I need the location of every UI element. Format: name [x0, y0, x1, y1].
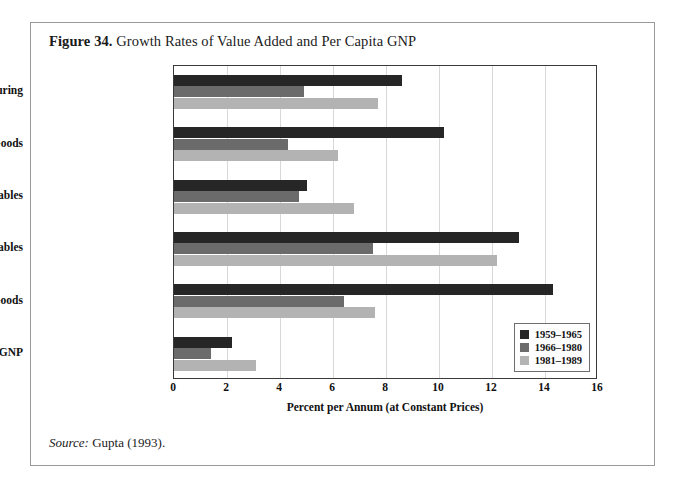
x-tick-label: 10 [432, 381, 444, 393]
x-tick-label: 14 [538, 381, 550, 393]
category-label: Intermediate Goods [0, 137, 23, 149]
figure-frame: Figure 34. Growth Rates of Value Added a… [30, 22, 655, 466]
legend-label: 1981–1989 [535, 355, 582, 366]
x-tick-label: 8 [382, 381, 388, 393]
chart-legend: 1959–19651966–19801981–1989 [514, 323, 590, 372]
bar [174, 307, 375, 318]
figure-number: Figure 34. [49, 33, 113, 49]
gridline-4 [280, 66, 281, 378]
gridline-10 [439, 66, 440, 378]
x-tick-label: 6 [329, 381, 335, 393]
gridline-2 [227, 66, 228, 378]
source-text: Gupta (1993). [89, 435, 165, 450]
bar [174, 296, 344, 307]
chart-plot-wrapper: 1959–19651966–19801981–1989 [173, 65, 597, 379]
bar [174, 127, 444, 138]
gridline-8 [386, 66, 387, 378]
bar [174, 284, 553, 295]
legend-item: 1959–1965 [520, 328, 582, 341]
x-tick-label: 16 [591, 381, 603, 393]
source-note: Source: Gupta (1993). [49, 435, 165, 451]
gridline-6 [333, 66, 334, 378]
x-tick-label: 4 [276, 381, 282, 393]
x-axis-label: Percent per Annum (at Constant Prices) [173, 401, 597, 413]
bar [174, 191, 299, 202]
figure-title-text: Growth Rates of Value Added and Per Capi… [116, 33, 416, 49]
category-label: Consumer Durables [0, 241, 23, 253]
bar-group [174, 232, 596, 267]
legend-swatch-icon [520, 330, 529, 339]
category-label: Capital Goods [0, 294, 23, 306]
legend-swatch-icon [520, 356, 529, 365]
bar [174, 360, 256, 371]
bar-group [174, 180, 596, 215]
x-tick-label: 0 [170, 381, 176, 393]
x-tick-label: 2 [223, 381, 229, 393]
bar [174, 150, 338, 161]
chart-plot-area: 1959–19651966–19801981–1989 [173, 65, 597, 379]
legend-item: 1966–1980 [520, 341, 582, 354]
legend-label: 1959–1965 [535, 329, 582, 340]
bar [174, 98, 378, 109]
bar [174, 348, 211, 359]
x-axis-ticks: 0246810121416 [173, 381, 597, 399]
bar [174, 243, 373, 254]
x-tick-label: 12 [485, 381, 497, 393]
category-label: Per Capita GNP [0, 346, 23, 358]
bar-group [174, 127, 596, 162]
category-label: Factory Manufacturing [0, 84, 23, 96]
bar [174, 337, 232, 348]
gridline-12 [492, 66, 493, 378]
bar-group [174, 75, 596, 110]
category-axis-labels: Factory ManufacturingIntermediate GoodsC… [0, 65, 23, 379]
bar-group [174, 284, 596, 319]
bar [174, 75, 402, 86]
source-label: Source: [49, 435, 89, 450]
legend-label: 1966–1980 [535, 342, 582, 353]
bar [174, 203, 354, 214]
bar [174, 180, 307, 191]
bar [174, 86, 304, 97]
category-label: Consumer Non-durables [0, 189, 23, 201]
legend-item: 1981–1989 [520, 354, 582, 367]
bar [174, 255, 497, 266]
bar [174, 139, 288, 150]
figure-title: Figure 34. Growth Rates of Value Added a… [49, 33, 416, 50]
bar [174, 232, 519, 243]
legend-swatch-icon [520, 343, 529, 352]
